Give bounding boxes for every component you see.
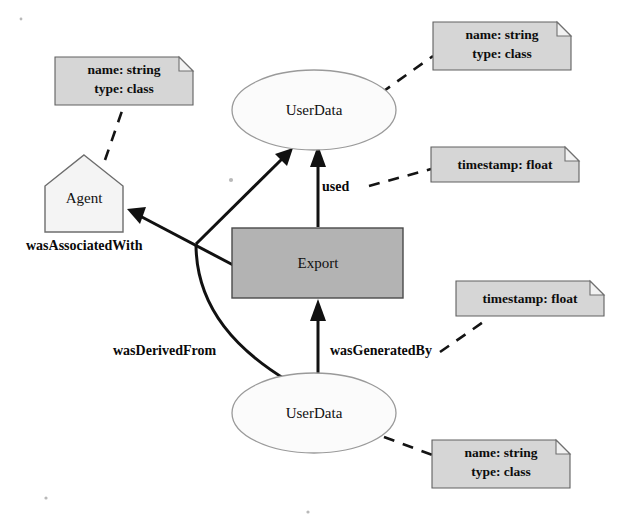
edge-label-wasassociatedwith: wasAssociatedWith: [26, 238, 143, 253]
node-label-userdata-top: UserData: [286, 102, 343, 118]
note-line: type: class: [471, 464, 531, 479]
edge-label-wasderivedfrom: wasDerivedFrom: [113, 343, 216, 358]
node-agent[interactable]: Agent: [45, 155, 123, 232]
arrowhead-wasgeneratedby: [310, 299, 326, 321]
arrowhead-wasassociatedwith: [127, 207, 146, 224]
note-fold-icon: [556, 440, 570, 454]
note-connector-wasgeneratedby: [440, 318, 489, 352]
edge-label-used: used: [322, 179, 349, 194]
note-line: type: class: [472, 46, 532, 61]
diagram-canvas: UserData Agent Export UserData name: str…: [0, 0, 624, 523]
edge-wasgeneratedby: [310, 299, 326, 380]
scan-speck: [306, 510, 309, 513]
provenance-diagram: UserData Agent Export UserData name: str…: [0, 0, 624, 523]
note-used[interactable]: timestamp: float: [431, 147, 579, 182]
node-label-userdata-bottom: UserData: [286, 405, 343, 421]
node-label-export: Export: [298, 255, 340, 271]
note-connector-userdata-top: [381, 56, 433, 93]
scan-speck: [20, 18, 23, 21]
note-line: timestamp: float: [483, 291, 578, 306]
note-line: name: string: [464, 445, 537, 460]
note-fold-icon: [590, 281, 604, 295]
note-line: name: string: [87, 62, 160, 77]
note-line: type: class: [94, 81, 154, 96]
note-userdata-top[interactable]: name: string type: class: [433, 22, 571, 70]
note-connector-userdata-bottom: [384, 437, 435, 456]
note-line: name: string: [465, 27, 538, 42]
node-userdata-top[interactable]: UserData: [232, 70, 396, 150]
note-userdata-bottom[interactable]: name: string type: class: [432, 440, 570, 488]
scan-speck: [229, 178, 233, 182]
note-fold-icon: [557, 22, 571, 36]
note-line: timestamp: float: [458, 157, 553, 172]
edge-label-wasgeneratedby: wasGeneratedBy: [330, 343, 432, 358]
node-export[interactable]: Export: [232, 228, 403, 298]
note-fold-icon: [179, 57, 193, 71]
node-userdata-bottom[interactable]: UserData: [232, 373, 396, 453]
note-fold-icon: [565, 147, 579, 161]
edge-wasassociatedwith: [127, 207, 235, 266]
note-wasgeneratedby[interactable]: timestamp: float: [456, 281, 604, 316]
node-label-agent: Agent: [66, 190, 103, 206]
note-agent[interactable]: name: string type: class: [55, 57, 193, 105]
note-connector-agent: [105, 108, 123, 160]
note-connector-used: [369, 169, 431, 186]
scan-speck: [44, 496, 47, 499]
